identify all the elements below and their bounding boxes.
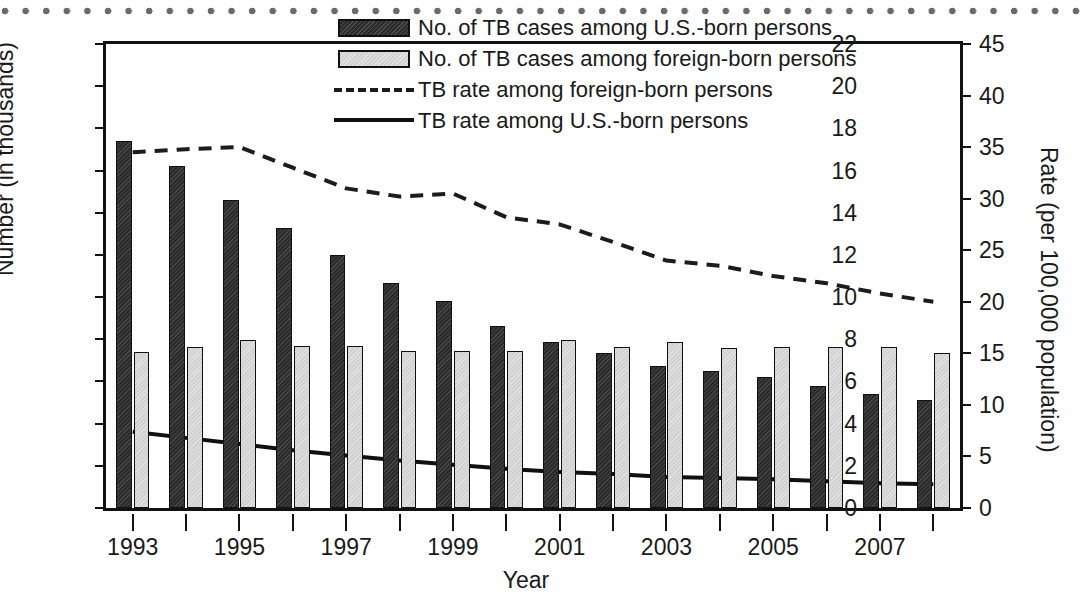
- x-axis-title-text: Year: [503, 567, 549, 594]
- x-axis-tick: [932, 514, 934, 531]
- x-axis-tick: [826, 514, 828, 531]
- y-axis-tick-label-right: 0: [979, 497, 992, 520]
- legend-key: [330, 74, 418, 105]
- y-axis-tick-label-right: 10: [979, 393, 1005, 416]
- bar-foreign-born: [507, 351, 523, 508]
- solid-line-icon: [334, 118, 414, 122]
- y-axis-tick-label-right: 35: [979, 136, 1005, 159]
- bar-us-born: [116, 141, 132, 508]
- legend-label: No. of TB cases among foreign-born perso…: [418, 48, 857, 70]
- legend-item-us-cases: No. of TB cases among U.S.-born persons: [330, 12, 857, 43]
- bar-foreign-born: [881, 347, 897, 508]
- y-axis-tick-label-right: 15: [979, 342, 1005, 365]
- bar-us-born: [223, 200, 239, 508]
- legend-key: [330, 12, 418, 43]
- bar-us-born: [757, 377, 773, 508]
- y-axis-tick-left: [95, 254, 106, 256]
- x-axis-tick: [559, 514, 561, 531]
- chart-figure: Number (in thousands) Rate (per 100,000 …: [0, 0, 1088, 604]
- legend-label: No. of TB cases among U.S.-born persons: [418, 17, 832, 39]
- bar-us-born: [917, 400, 933, 508]
- y-axis-title-right: Rate (per 100,000 population): [1035, 147, 1062, 453]
- swatch-dark-icon: [338, 19, 410, 37]
- legend-label: TB rate among U.S.-born persons: [418, 110, 748, 132]
- y-axis-tick-label-left: 10: [831, 286, 857, 309]
- x-axis-tick: [879, 514, 881, 531]
- x-axis-tick-label: 2007: [854, 536, 905, 559]
- bar-foreign-born: [347, 346, 363, 508]
- x-axis-tick: [505, 514, 507, 531]
- y-axis-tick-left: [95, 43, 106, 45]
- x-axis-tick-label: 1993: [107, 536, 158, 559]
- x-axis-tick-label: 2005: [748, 536, 799, 559]
- legend-label: TB rate among foreign-born persons: [418, 79, 773, 101]
- x-axis-tick: [345, 514, 347, 531]
- y-axis-tick-right: [960, 455, 971, 457]
- bar-us-born: [703, 371, 719, 508]
- y-axis-tick-left: [95, 380, 106, 382]
- legend-item-foreign-cases: No. of TB cases among foreign-born perso…: [330, 43, 857, 74]
- bar-us-born: [863, 394, 879, 508]
- x-axis-tick: [719, 514, 721, 531]
- y-axis-tick-label-left: 0: [844, 497, 857, 520]
- x-axis-tick-label: 1999: [427, 536, 478, 559]
- y-axis-tick-left: [95, 423, 106, 425]
- legend-item-foreign-rate: TB rate among foreign-born persons: [330, 74, 857, 105]
- y-axis-tick-label-right: 5: [979, 445, 992, 468]
- y-axis-tick-left: [95, 296, 106, 298]
- y-axis-tick-label-left: 8: [844, 328, 857, 351]
- y-axis-tick-left: [95, 338, 106, 340]
- bar-us-born: [810, 386, 826, 508]
- bar-foreign-born: [828, 347, 844, 508]
- x-axis-tick: [665, 514, 667, 531]
- x-axis-tick: [612, 514, 614, 531]
- x-axis-tick: [399, 514, 401, 531]
- bar-us-born: [543, 342, 559, 508]
- legend-key: [330, 43, 418, 74]
- bar-foreign-born: [774, 347, 790, 508]
- y-axis-tick-left: [95, 127, 106, 129]
- y-axis-tick-left: [95, 465, 106, 467]
- bar-foreign-born: [294, 346, 310, 508]
- y-axis-tick-label-left: 2: [844, 454, 857, 477]
- y-axis-tick-left: [95, 85, 106, 87]
- x-axis-tick: [452, 514, 454, 531]
- bar-foreign-born: [561, 340, 577, 508]
- bar-us-born: [596, 353, 612, 508]
- y-axis-tick-right: [960, 507, 971, 509]
- bar-foreign-born: [934, 353, 950, 508]
- bar-foreign-born: [454, 351, 470, 508]
- x-axis-tick: [185, 514, 187, 531]
- legend-key: [330, 105, 418, 136]
- y-axis-tick-right: [960, 404, 971, 406]
- bar-us-born: [650, 366, 666, 508]
- x-axis-tick-label: 2001: [534, 536, 585, 559]
- bar-us-born: [383, 283, 399, 508]
- y-axis-tick-label-right: 20: [979, 290, 1005, 313]
- y-axis-tick-label-right: 30: [979, 187, 1005, 210]
- x-axis-tick: [132, 514, 134, 531]
- y-axis-tick-right: [960, 352, 971, 354]
- x-axis-tick: [292, 514, 294, 531]
- y-axis-tick-left: [95, 170, 106, 172]
- x-axis-tick: [238, 514, 240, 531]
- bar-us-born: [490, 326, 506, 508]
- y-axis-tick-label-right: 25: [979, 239, 1005, 262]
- y-axis-tick-label-left: 4: [844, 412, 857, 435]
- x-axis-title: Year: [0, 567, 1088, 594]
- chart-legend: No. of TB cases among U.S.-born persons …: [330, 12, 857, 136]
- swatch-light-icon: [338, 50, 410, 68]
- bar-foreign-born: [614, 347, 630, 508]
- y-axis-tick-label-left: 12: [831, 243, 857, 266]
- y-axis-tick-left: [95, 507, 106, 509]
- y-axis-tick-label-right: 40: [979, 84, 1005, 107]
- bar-foreign-born: [187, 347, 203, 508]
- y-axis-tick-label-left: 6: [844, 370, 857, 393]
- bar-foreign-born: [401, 351, 417, 508]
- x-axis-tick-label: 1997: [321, 536, 372, 559]
- y-axis-tick-right: [960, 249, 971, 251]
- y-axis-tick-right: [960, 95, 971, 97]
- y-axis-tick-left: [95, 212, 106, 214]
- y-axis-title-left: Number (in thousands): [0, 42, 19, 276]
- legend-item-us-rate: TB rate among U.S.-born persons: [330, 105, 857, 136]
